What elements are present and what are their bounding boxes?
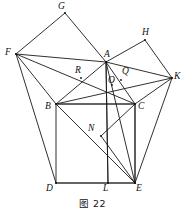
vertex-Q [120,79,122,81]
geometry-canvas [0,0,185,217]
segment-FA [16,54,106,62]
vertex-K [171,77,173,79]
vertex-B [55,103,57,105]
edges-layer [16,13,172,183]
segment-KE [135,78,172,183]
segment-AL [106,62,108,183]
vertex-C [134,103,136,105]
segment-CN [101,104,135,136]
figure-caption: 图 22 [0,196,185,210]
vertex-F [15,53,17,55]
vertex-D [55,182,57,184]
segment-NE [101,136,135,183]
vertices-layer [15,12,173,184]
segment-AB [56,62,106,104]
vertex-N [100,135,102,137]
segment-AH [106,40,145,62]
vertex-L [107,182,109,184]
segment-BF [16,54,56,104]
segment-BE [56,104,135,183]
vertex-H [144,39,146,41]
vertex-A [105,61,107,63]
segment-FD [16,54,56,183]
segment-FG [16,13,65,54]
vertex-E [134,182,136,184]
vertex-R [80,77,82,79]
geometry-figure: GHFAKRQOBCNDLE 图 22 [0,0,185,217]
segment-FC [16,54,135,104]
segment-GA [65,13,106,62]
vertex-G [64,12,66,14]
vertex-O [111,84,113,86]
segment-KB [56,78,172,104]
